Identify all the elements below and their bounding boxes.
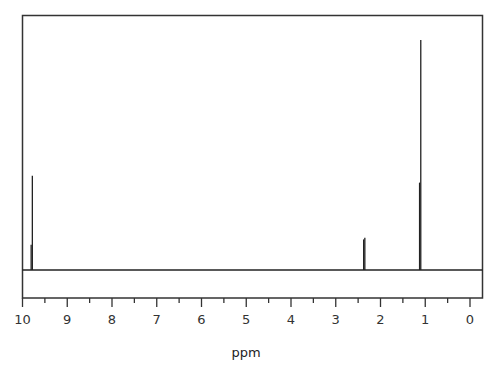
tick-label: 9 — [63, 312, 71, 327]
tick-label: 10 — [14, 312, 31, 327]
tick-label: 6 — [197, 312, 205, 327]
tick-label: 2 — [376, 312, 384, 327]
tick-label: 4 — [287, 312, 295, 327]
tick-label: 3 — [332, 312, 340, 327]
tick-label: 7 — [153, 312, 161, 327]
tick-label: 8 — [108, 312, 116, 327]
spectrum-trace — [23, 40, 483, 270]
nmr-spectrum-chart: 109876543210 ppm — [0, 0, 499, 388]
tick-label: 0 — [466, 312, 474, 327]
tick-label: 5 — [242, 312, 250, 327]
x-axis-label: ppm — [231, 345, 260, 360]
tick-label: 1 — [421, 312, 429, 327]
x-axis: 109876543210 — [14, 298, 474, 327]
plot-frame — [23, 16, 483, 299]
